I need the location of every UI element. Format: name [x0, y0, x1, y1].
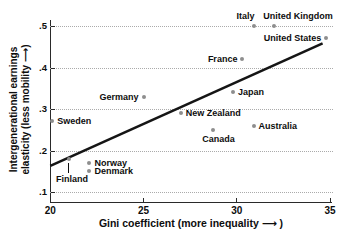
data-point-label: Italy: [237, 11, 255, 21]
gridline: [50, 26, 333, 27]
data-point-marker: [142, 95, 146, 99]
data-point-label: United States: [264, 33, 322, 43]
x-tick-mark: [143, 198, 144, 202]
data-point-marker: [211, 128, 215, 132]
data-point-marker: [67, 157, 71, 161]
gridline: [50, 151, 333, 152]
data-point-label: Canada: [202, 134, 235, 144]
trend-line: [50, 43, 322, 165]
x-tick-mark: [236, 198, 237, 202]
data-point-label: Germany: [100, 91, 139, 101]
x-tick-mark: [50, 198, 51, 202]
y-tick-mark: [51, 109, 55, 110]
data-point-marker: [50, 119, 54, 123]
y-tick-label: .3: [24, 103, 47, 114]
data-point-label: Japan: [238, 87, 264, 97]
data-point-marker: [252, 24, 256, 28]
data-point-marker: [240, 57, 244, 61]
y-tick-label: .2: [24, 145, 47, 156]
y-axis-line: [50, 20, 51, 203]
data-point-label: Australia: [259, 120, 298, 130]
y-tick-label: .5: [24, 20, 47, 31]
data-point-marker: [324, 36, 328, 40]
gridline: [50, 192, 333, 193]
x-tick-label: 30: [225, 205, 249, 216]
leader-line: [68, 163, 69, 173]
data-point-marker: [272, 24, 276, 28]
x-axis-line: [50, 202, 332, 203]
x-tick-mark: [330, 198, 331, 202]
gridline: [50, 68, 333, 69]
y-tick-label: .1: [24, 186, 47, 197]
data-point-marker: [231, 90, 235, 94]
y-tick-mark: [51, 192, 55, 193]
y-tick-mark: [51, 26, 55, 27]
x-tick-label: 35: [318, 205, 342, 216]
data-point-label: Denmark: [94, 166, 133, 176]
data-point-marker: [87, 169, 91, 173]
great-gatsby-curve-chart: Intergenerational earnings elasticity (l…: [0, 0, 346, 248]
x-tick-label: 20: [38, 205, 62, 216]
x-tick-label: 25: [132, 205, 156, 216]
y-tick-mark: [51, 151, 55, 152]
y-tick-label: .4: [24, 62, 47, 73]
data-point-label: Finland: [56, 174, 88, 184]
y-tick-mark: [51, 68, 55, 69]
data-point-marker: [179, 111, 183, 115]
data-point-label: France: [208, 54, 238, 64]
data-point-label: Sweden: [57, 116, 91, 126]
data-point-marker: [87, 161, 91, 165]
data-point-label: United Kingdom: [263, 11, 333, 21]
plot-area: .1.2.3.4.520253035SwedenFinlandNorwayDen…: [0, 0, 346, 248]
x-axis-title: Gini coefficient (more inequality ⟶ ): [50, 217, 332, 229]
data-point-label: New Zealand: [186, 108, 241, 118]
data-point-marker: [252, 124, 256, 128]
